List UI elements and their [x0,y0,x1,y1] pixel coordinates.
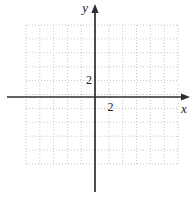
x-tick-label: 2 [108,100,114,114]
x-axis-label: x [180,101,187,116]
coordinate-plane-svg: y x 2 2 [0,0,193,200]
y-axis-label: y [80,0,88,15]
y-axis-arrowhead [91,4,98,13]
x-axis-arrowhead [181,93,190,100]
y-tick-label: 2 [86,73,92,87]
coordinate-plane-figure: y x 2 2 [0,0,193,200]
grid-lines [26,25,178,164]
